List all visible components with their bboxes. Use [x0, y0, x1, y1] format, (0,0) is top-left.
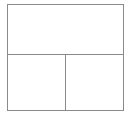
pane-bottom-right[interactable]	[66, 55, 123, 110]
pane-top[interactable]	[8, 5, 123, 55]
wireframe-canvas	[0, 0, 132, 119]
pane-bottom-left-content	[8, 55, 65, 110]
pane-bottom-left[interactable]	[8, 55, 66, 110]
pane-top-content	[8, 5, 123, 54]
pane-bottom-right-content	[66, 55, 123, 110]
pane-frame-outer-rectangle	[7, 4, 124, 111]
pane-bottom-row	[8, 55, 123, 110]
